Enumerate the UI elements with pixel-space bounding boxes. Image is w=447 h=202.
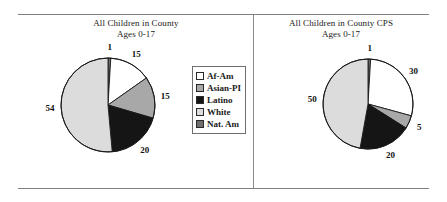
bottom-rule [18,188,429,189]
pie-slice-label: 54 [46,103,56,113]
legend-box: Af-Am Asian-PI Latino White Nat. Am [192,66,246,134]
pie-slice-label: 20 [140,145,150,155]
pie-slice-label: 20 [386,150,396,160]
legend-swatch-asian-pi [196,84,204,92]
legend-label-white: White [207,106,231,118]
pie-slice-label: 30 [409,66,419,76]
panel-all-children-county: All Children in County Ages 0-17 1151520… [19,15,253,188]
pie-slice [323,59,368,148]
pie-slice-label: 15 [161,91,171,101]
legend-label-af-am: Af-Am [207,70,234,82]
pie-svg-right: 13052050 [254,15,428,188]
legend-label-nat-am: Nat. Am [207,118,239,130]
legend-item-af-am: Af-Am [196,70,241,82]
legend-item-latino: Latino [196,94,241,106]
legend-swatch-latino [196,96,204,104]
panel-all-children-county-cps: All Children in County CPS Ages 0-17 130… [254,15,428,188]
pie-slice-label: 1 [107,42,112,52]
legend-item-white: White [196,106,241,118]
legend-item-nat-am: Nat. Am [196,118,241,130]
legend-label-asian-pi: Asian-PI [207,82,241,94]
legend-label-latino: Latino [207,94,233,106]
legend-swatch-nat-am [196,120,204,128]
pie-slice-label: 50 [308,94,318,104]
pie-chart-right: 13052050 [254,15,428,188]
pie-slice-label: 1 [367,43,372,53]
legend-item-asian-pi: Asian-PI [196,82,241,94]
figure-canvas: All Children in County Ages 0-17 1151520… [0,0,447,202]
legend-swatch-af-am [196,72,204,80]
legend-swatch-white [196,108,204,116]
pie-slice-label: 15 [132,49,142,59]
pie-slice [61,58,112,152]
pie-slice-label: 5 [417,122,422,132]
